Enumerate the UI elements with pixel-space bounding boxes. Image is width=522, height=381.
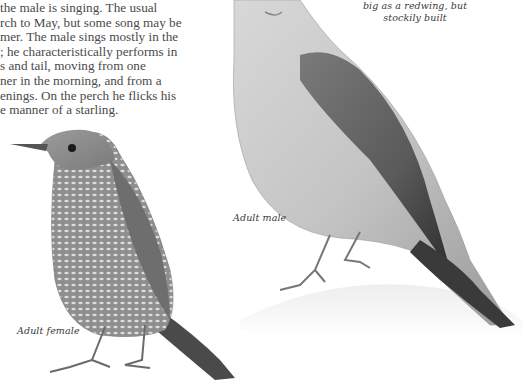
size-caption: big as a redwing, but stockily built — [345, 0, 485, 24]
body-text-line: the male is singing. The usual — [0, 1, 240, 16]
body-text-line: ner in the morning, and from a — [0, 74, 240, 89]
body-text-line: ; he characteristically performs in — [0, 45, 240, 60]
adult-female-caption: Adult female — [17, 325, 80, 336]
size-caption-line: stockily built — [345, 12, 485, 24]
body-text-line: rch to May, but some song may be — [0, 16, 240, 31]
body-text-line: s and tail, moving from one — [0, 59, 240, 74]
adult-female-bird-illustration — [0, 120, 240, 381]
body-text-paragraph: the male is singing. The usual rch to Ma… — [0, 1, 240, 118]
adult-male-bird-illustration — [220, 0, 522, 381]
body-text-line: e manner of a starling. — [0, 103, 240, 118]
size-caption-line: big as a redwing, but — [345, 0, 485, 12]
adult-male-caption: Adult male — [233, 212, 286, 223]
body-text-line: enings. On the perch he flicks his — [0, 89, 240, 104]
body-text-line: mer. The male sings mostly in the — [0, 30, 240, 45]
